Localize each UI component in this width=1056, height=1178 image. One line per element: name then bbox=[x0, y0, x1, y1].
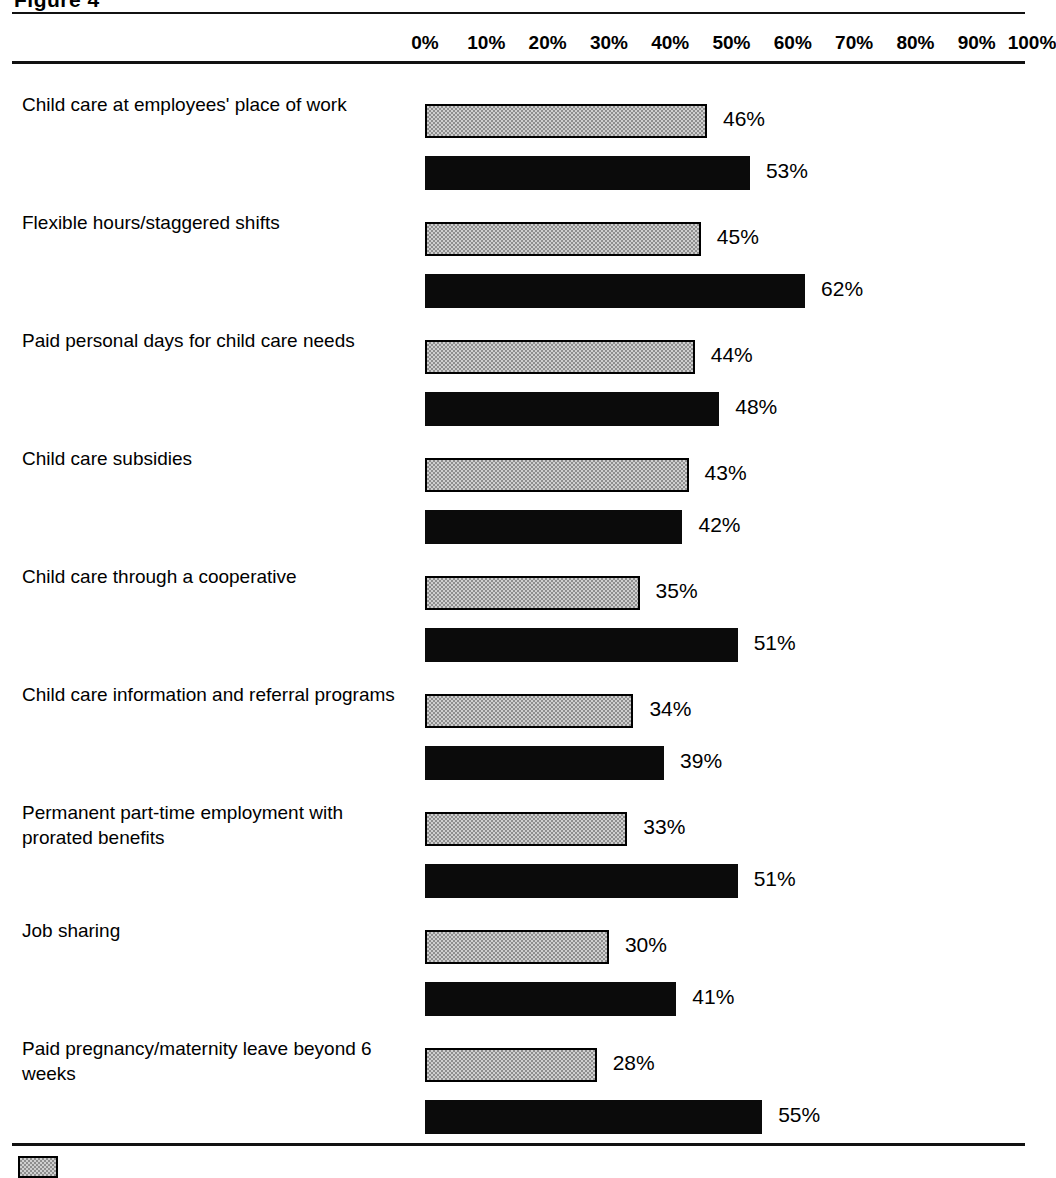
bar-value-label: 42% bbox=[698, 513, 740, 537]
bar-row: 44% bbox=[0, 340, 1035, 374]
bar-row: 42% bbox=[0, 510, 1035, 544]
bar-dark bbox=[425, 746, 664, 780]
bar-row: 55% bbox=[0, 1100, 1035, 1134]
bar-value-label: 62% bbox=[821, 277, 863, 301]
bar-dark bbox=[425, 510, 682, 544]
bar-dark bbox=[425, 274, 805, 308]
bar-row: 35% bbox=[0, 576, 1035, 610]
axis-tick-60pct: 60% bbox=[774, 32, 812, 54]
bar-light bbox=[425, 104, 707, 138]
bar-row: 46% bbox=[0, 104, 1035, 138]
bar-value-label: 48% bbox=[735, 395, 777, 419]
bar-value-label: 34% bbox=[649, 697, 691, 721]
bar-value-label: 33% bbox=[643, 815, 685, 839]
bar-group: Child care information and referral prog… bbox=[0, 672, 1035, 790]
axis-tick-50pct: 50% bbox=[712, 32, 750, 54]
bar-light bbox=[425, 340, 695, 374]
bar-row: 51% bbox=[0, 864, 1035, 898]
bar-dark bbox=[425, 156, 750, 190]
bar-dark bbox=[425, 628, 738, 662]
bar-value-label: 41% bbox=[692, 985, 734, 1009]
legend-swatch bbox=[18, 1156, 58, 1178]
bar-row: 45% bbox=[0, 222, 1035, 256]
bar-dark bbox=[425, 982, 676, 1016]
bar-group: Child care through a cooperative35%51% bbox=[0, 554, 1035, 672]
bar-value-label: 28% bbox=[613, 1051, 655, 1075]
bar-value-label: 51% bbox=[754, 631, 796, 655]
bar-group: Permanent part-time employment with pror… bbox=[0, 790, 1035, 908]
bar-row: 33% bbox=[0, 812, 1035, 846]
bar-value-label: 43% bbox=[705, 461, 747, 485]
bar-dark bbox=[425, 392, 719, 426]
bar-dark bbox=[425, 864, 738, 898]
bar-value-label: 51% bbox=[754, 867, 796, 891]
bar-row: 53% bbox=[0, 156, 1035, 190]
axis-tick-70pct: 70% bbox=[835, 32, 873, 54]
bar-light bbox=[425, 222, 701, 256]
axis-tick-100pct: 100% bbox=[1008, 32, 1056, 54]
bar-group: Paid pregnancy/maternity leave beyond 6 … bbox=[0, 1026, 1035, 1144]
bar-group: Job sharing30%41% bbox=[0, 908, 1035, 1026]
bar-light bbox=[425, 694, 633, 728]
x-axis-tick-labels: 0%10%20%30%40%50%60%70%80%90%100% bbox=[0, 32, 1035, 56]
bar-dark bbox=[425, 1100, 762, 1134]
bar-row: 62% bbox=[0, 274, 1035, 308]
legend bbox=[18, 1156, 70, 1178]
bar-light bbox=[425, 812, 627, 846]
plot-area: Child care at employees' place of work46… bbox=[0, 64, 1035, 1140]
axis-tick-80pct: 80% bbox=[896, 32, 934, 54]
bar-row: 48% bbox=[0, 392, 1035, 426]
rule-top bbox=[12, 12, 1025, 14]
axis-tick-10pct: 10% bbox=[467, 32, 505, 54]
bar-row: 39% bbox=[0, 746, 1035, 780]
bar-value-label: 35% bbox=[656, 579, 698, 603]
figure-title: Figure 4 bbox=[14, 0, 100, 12]
bar-light bbox=[425, 1048, 597, 1082]
bar-value-label: 30% bbox=[625, 933, 667, 957]
bar-group: Flexible hours/staggered shifts45%62% bbox=[0, 200, 1035, 318]
bar-row: 43% bbox=[0, 458, 1035, 492]
axis-tick-20pct: 20% bbox=[529, 32, 567, 54]
bar-group: Child care subsidies43%42% bbox=[0, 436, 1035, 554]
bar-value-label: 39% bbox=[680, 749, 722, 773]
rule-bottom bbox=[12, 1143, 1025, 1146]
bar-value-label: 53% bbox=[766, 159, 808, 183]
bar-light bbox=[425, 458, 689, 492]
bar-value-label: 46% bbox=[723, 107, 765, 131]
bar-row: 30% bbox=[0, 930, 1035, 964]
bar-light bbox=[425, 930, 609, 964]
bar-row: 28% bbox=[0, 1048, 1035, 1082]
axis-tick-30pct: 30% bbox=[590, 32, 628, 54]
bar-value-label: 55% bbox=[778, 1103, 820, 1127]
bar-light bbox=[425, 576, 640, 610]
bar-row: 51% bbox=[0, 628, 1035, 662]
bar-row: 34% bbox=[0, 694, 1035, 728]
bar-group: Child care at employees' place of work46… bbox=[0, 82, 1035, 200]
bar-row: 41% bbox=[0, 982, 1035, 1016]
axis-tick-40pct: 40% bbox=[651, 32, 689, 54]
bar-value-label: 44% bbox=[711, 343, 753, 367]
bar-value-label: 45% bbox=[717, 225, 759, 249]
axis-tick-0pct: 0% bbox=[411, 32, 438, 54]
axis-tick-90pct: 90% bbox=[958, 32, 996, 54]
bar-group: Paid personal days for child care needs4… bbox=[0, 318, 1035, 436]
